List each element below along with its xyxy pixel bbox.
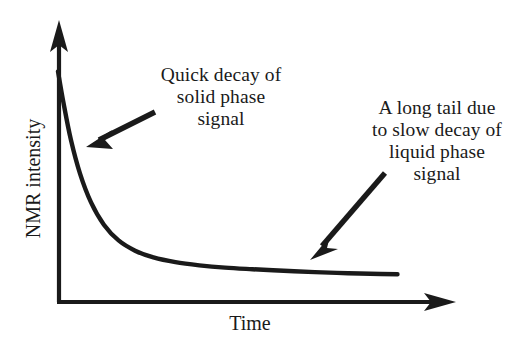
annotation-solid-phase-text: Quick decay of solid phase signal — [131, 64, 311, 130]
arrow-to-liquid-phase-tail — [310, 173, 385, 260]
annotation-solid-phase-line-3: signal — [131, 108, 311, 130]
annotation-solid-phase-line-1: Quick decay of — [131, 64, 311, 86]
annotation-liquid-phase-line-3: liquid phase — [347, 141, 527, 163]
annotation-liquid-phase-text: A long tail due to slow decay of liquid … — [347, 97, 527, 185]
annotation-liquid-phase-line-4: signal — [347, 163, 527, 185]
annotation-solid-phase-line-2: solid phase — [131, 86, 311, 108]
annotation-liquid-phase-line-2: to slow decay of — [347, 119, 527, 141]
x-axis-label: Time — [0, 312, 500, 335]
nmr-decay-figure: Quick decay of solid phase signal A long… — [0, 0, 531, 346]
annotation-liquid-phase-line-1: A long tail due — [347, 97, 527, 119]
y-axis-label: NMR intensity — [22, 84, 45, 274]
